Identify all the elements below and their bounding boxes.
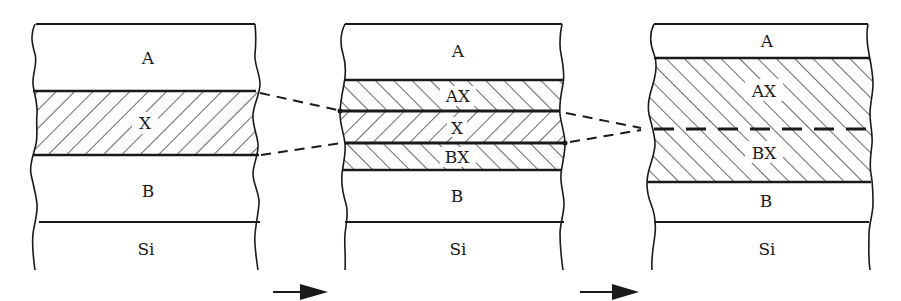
layer-label-ax: AX bbox=[751, 81, 777, 101]
layer-label-bx: BX bbox=[445, 147, 470, 167]
arrow-icon bbox=[273, 284, 328, 300]
layer-label-si: Si bbox=[137, 239, 155, 259]
layer-label-b: B bbox=[760, 191, 773, 211]
layer-diffusion-diagram: A X B Si A AX X BX B Si bbox=[0, 0, 901, 301]
layer-label-ax: AX bbox=[445, 86, 471, 106]
layer-label-b: B bbox=[142, 181, 155, 201]
layer-label-si: Si bbox=[758, 239, 776, 259]
layer-label-b: B bbox=[451, 186, 464, 206]
arrow-icon bbox=[580, 284, 639, 300]
layer-label-a: A bbox=[760, 31, 774, 51]
panel-initial: A X B Si bbox=[20, 24, 280, 270]
layer-label-a: A bbox=[451, 41, 465, 61]
layer-label-si: Si bbox=[449, 239, 467, 259]
layer-axbx-hatch bbox=[640, 58, 890, 182]
layer-label-bx: BX bbox=[752, 143, 777, 163]
layer-label-a: A bbox=[141, 48, 155, 68]
layer-label-x: X bbox=[139, 113, 152, 133]
panel-left-edge bbox=[647, 24, 656, 270]
connector-1-to-2 bbox=[260, 93, 342, 155]
connector-2-to-3 bbox=[566, 113, 641, 142]
panel-final: A AX BX B Si bbox=[640, 24, 890, 270]
panel-intermediate: A AX X BX B Si bbox=[330, 24, 580, 270]
layer-label-x: X bbox=[451, 118, 464, 138]
